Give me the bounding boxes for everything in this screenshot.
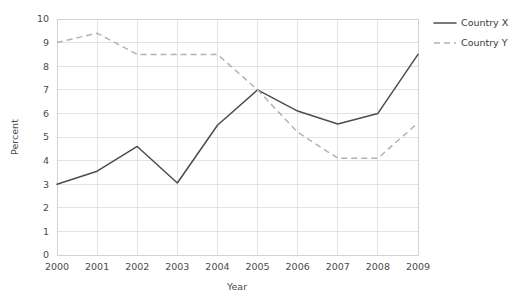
y-tick-label: 10 (37, 13, 49, 24)
line-chart: 012345678910 200020012002200320042005200… (0, 0, 518, 297)
x-axis-title: Year (226, 281, 247, 292)
y-tick-label: 6 (43, 108, 49, 119)
x-tick-label: 2005 (245, 261, 269, 272)
x-tick-label: 2000 (45, 261, 69, 272)
x-tick-label: 2004 (205, 261, 229, 272)
y-tick-label: 1 (43, 226, 49, 237)
y-tick-label: 4 (43, 155, 49, 166)
x-tick-label: 2002 (125, 261, 149, 272)
y-tick-label: 7 (43, 84, 49, 95)
chart-canvas: 012345678910 200020012002200320042005200… (0, 0, 518, 297)
y-tick-label: 3 (43, 179, 49, 190)
y-tick-label: 8 (43, 61, 49, 72)
y-axis-title: Percent (9, 119, 20, 155)
legend-label-country-y: Country Y (461, 37, 508, 48)
x-tick-label: 2008 (366, 261, 390, 272)
y-tick-label: 0 (43, 249, 49, 260)
y-tick-label: 2 (43, 202, 49, 213)
y-tick-label: 9 (43, 37, 49, 48)
legend-label-country-x: Country X (461, 17, 509, 28)
x-tick-label: 2007 (326, 261, 350, 272)
x-tick-label: 2006 (286, 261, 310, 272)
x-tick-label: 2001 (85, 261, 109, 272)
y-tick-label: 5 (43, 131, 49, 142)
chart-background (0, 0, 518, 297)
x-tick-label: 2009 (406, 261, 430, 272)
x-tick-label: 2003 (165, 261, 189, 272)
